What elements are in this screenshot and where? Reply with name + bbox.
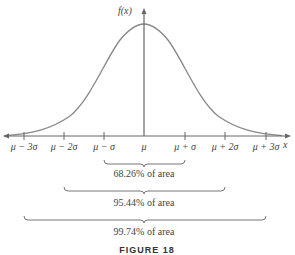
x-axis-label: x [283,139,287,150]
x-axis-arrow-left [3,134,9,139]
tick-label-minus-2sigma: μ − 2σ [51,141,78,152]
figure-caption: FIGURE 18 [119,245,175,255]
y-axis-arrow [142,8,147,14]
tick-label-plus-2sigma: μ + 2σ [212,141,239,152]
area-label-68: 68.26% of area [114,168,175,179]
y-axis-label: f(x) [118,5,132,16]
tick-label-minus-3sigma: μ − 3σ [11,141,38,152]
area-label-95: 95.44% of area [114,197,175,208]
area-label-99: 99.74% of area [114,226,175,237]
tick-label-mu: μ [141,141,146,152]
tick-label-plus-sigma: μ + σ [174,141,196,152]
brace-3sigma [24,216,266,223]
tick-label-minus-sigma: μ − σ [93,141,115,152]
brace-1sigma [104,160,185,167]
tick-label-plus-3sigma: μ + 3σ [253,141,280,152]
brace-2sigma [64,187,225,194]
x-axis-arrow-right [285,134,291,139]
